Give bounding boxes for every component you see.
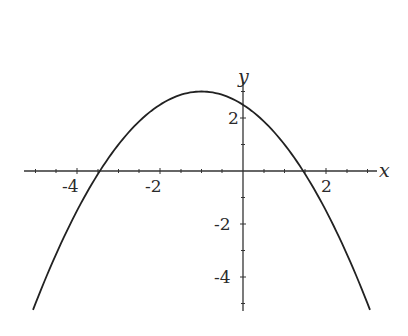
parabola-plot: -4 -2 2 2 -2 -4 x y (0, 0, 408, 336)
y-axis-label: y (237, 65, 249, 87)
x-axis-label: x (379, 159, 390, 181)
y-tick-label: 2 (228, 108, 239, 128)
y-tick-label: -4 (214, 267, 231, 287)
y-tick-label: -2 (214, 214, 231, 234)
x-tick-label: -4 (62, 176, 79, 196)
x-tick-label: -2 (145, 176, 162, 196)
x-tick-label: 2 (321, 176, 332, 196)
parabola-curve (33, 92, 370, 310)
